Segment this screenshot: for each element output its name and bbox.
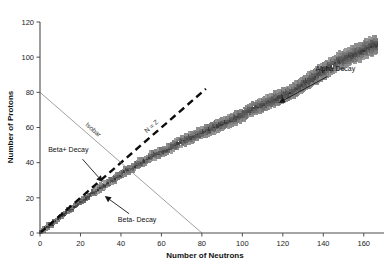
nuclide-square [371,39,373,41]
y-tick-label: 80 [26,88,34,97]
x-tick-label: 160 [358,239,371,248]
y-tick-label: 100 [21,53,34,62]
x-tick-label: 80 [198,239,206,248]
y-tick-label: 20 [26,194,34,203]
y-tick-label: 40 [26,158,34,167]
isobar-label: Isobar [84,121,103,139]
nuclide-square [268,106,270,108]
beta-minus-decay-label: Beta- Decay [118,216,157,224]
beta-minus-decay-arrow-head [105,196,112,202]
beta-minus-decay-arrow-shaft [110,200,129,214]
x-tick-label: 60 [157,239,165,248]
chart-canvas: N = ZIsobar 0204060801001201401600204060… [0,0,392,267]
beta-plus-decay-arrow-shaft [82,159,98,177]
x-axis-title: Number of Neutrons [166,251,244,260]
nuclide-square [170,142,172,144]
y-tick-label: 120 [21,18,34,27]
nuclide-square [365,51,367,53]
x-tick-label: 20 [76,239,84,248]
x-tick-label: 40 [117,239,125,248]
nuclide-chart: N = ZIsobar 0204060801001201401600204060… [0,0,392,267]
nuclide-square [112,176,114,178]
nuclide-square [375,35,377,37]
y-axis-title: Number of Protons [6,90,15,163]
nuclide-square [368,36,371,39]
alpha-decay-label: Alpha Decay [316,65,356,73]
x-tick-label: 140 [317,239,330,248]
y-tick-label: 0 [30,229,34,238]
beta-plus-decay-label: Beta+ Decay [48,146,89,154]
x-tick-label: 120 [277,239,290,248]
nuclide-square [142,157,144,159]
nuclide-square [231,113,233,115]
nuclide-square [227,114,229,116]
x-tick-label: 100 [236,239,249,248]
y-tick-label: 60 [26,123,34,132]
nuclide-square [193,130,195,132]
x-tick-label: 0 [38,239,42,248]
nuclide-square [304,90,306,92]
chart-annotations: Beta+ DecayBeta- DecayAlpha Decay [48,65,356,224]
